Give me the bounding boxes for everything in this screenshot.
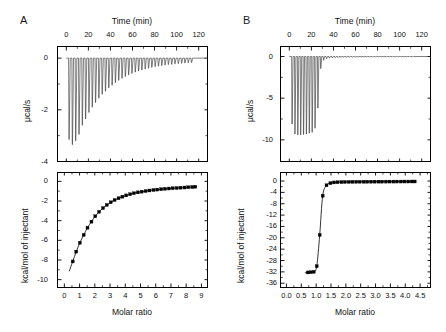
axis-tick-label: -10	[241, 135, 273, 144]
axis-tick-label: -5	[241, 93, 273, 102]
panel-b-thermogram-trace	[289, 57, 428, 135]
axis-tick-label: -12	[245, 210, 277, 219]
axis-tick-label: 0	[245, 176, 277, 185]
axis-tick-label: -32	[245, 267, 277, 276]
axis-tick-label: 4.5	[400, 291, 440, 300]
axis-tick-label: -2	[16, 196, 48, 205]
axis-tick-label: -4	[16, 216, 48, 225]
axis-tick-label: -36	[245, 278, 277, 287]
axis-tick-label: 0	[241, 52, 273, 61]
axis-tick-label: -8	[245, 199, 277, 208]
axis-tick-label: -2	[16, 105, 48, 114]
axis-tick-label: 0	[16, 176, 48, 185]
axis-tick-label: -6	[16, 235, 48, 244]
axis-tick-label: 120	[402, 30, 442, 39]
panel-a-thermogram-trace	[66, 58, 205, 145]
axis-tick-label: -4	[16, 157, 48, 166]
axis-tick-label: 0	[16, 53, 48, 62]
axis-tick-label: -16	[245, 221, 277, 230]
panel-b: B Time (min) μcal/s kcal/mol of injectan…	[223, 0, 446, 332]
panel-a-isotherm-frame	[58, 173, 208, 288]
axis-tick-label: -8	[16, 255, 48, 264]
axis-tick-label: -10	[16, 275, 48, 284]
itc-figure: A Time (min) μcal/s kcal/mol of injectan…	[0, 0, 446, 332]
axis-tick-label: 9	[181, 291, 221, 300]
panel-a: A Time (min) μcal/s kcal/mol of injectan…	[0, 0, 223, 332]
axis-tick-label: -20	[245, 233, 277, 242]
axis-tick-label: -24	[245, 244, 277, 253]
axis-tick-label: -28	[245, 256, 277, 265]
panel-b-isotherm-frame	[281, 173, 431, 288]
axis-tick-label: -4	[245, 187, 277, 196]
axis-tick-label: 120	[179, 30, 219, 39]
